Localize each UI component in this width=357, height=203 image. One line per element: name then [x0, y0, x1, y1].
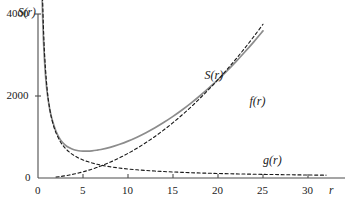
chart-plot-area [0, 0, 357, 203]
curve-label-gr: g(r) [263, 154, 282, 166]
x-tick-label: 5 [80, 185, 86, 196]
x-tick-label: 0 [35, 185, 41, 196]
curve-label-sr: S(r) [205, 69, 224, 81]
y-tick-label: 0 [25, 172, 31, 183]
x-axis-ticks [83, 174, 308, 178]
x-tick-label: 25 [257, 185, 268, 196]
series-curve-sr [42, 0, 263, 151]
y-tick-label: 4000 [7, 8, 29, 19]
x-tick-label: 15 [167, 185, 178, 196]
x-axis-label: r [329, 185, 333, 197]
curve-label-fr: f(r) [250, 95, 266, 107]
series-curve-gr [43, 0, 327, 175]
series-curve-fr [56, 24, 263, 177]
x-tick-label: 30 [302, 185, 313, 196]
x-tick-label: 10 [122, 185, 133, 196]
x-tick-label: 20 [212, 185, 223, 196]
chart-series-layer [42, 0, 326, 177]
y-tick-label: 2000 [7, 90, 29, 101]
chart-figure: S(r) r 020004000 051015202530 S(r)f(r)g(… [0, 0, 357, 203]
